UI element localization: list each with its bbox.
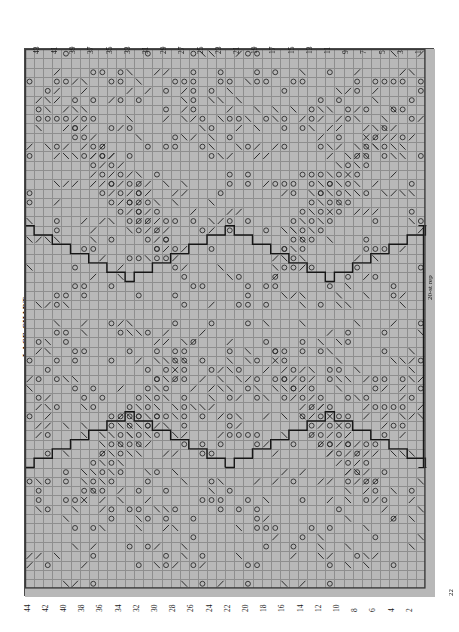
column-number-27: 27 bbox=[177, 47, 186, 55]
column-number-2: 2 bbox=[405, 609, 414, 613]
column-number-15: 15 bbox=[287, 47, 296, 55]
column-number-11: 11 bbox=[323, 47, 332, 54]
column-number-34: 34 bbox=[114, 605, 123, 613]
column-number-35: 35 bbox=[105, 47, 114, 55]
column-number-1: 1 bbox=[414, 50, 423, 54]
column-number-20: 20 bbox=[241, 605, 250, 613]
column-number-30: 30 bbox=[150, 605, 159, 613]
column-number-21: 21 bbox=[232, 47, 241, 55]
column-number-8: 8 bbox=[350, 609, 359, 613]
column-number-9: 9 bbox=[341, 50, 350, 54]
column-number-10: 10 bbox=[332, 605, 341, 613]
column-number-23: 23 bbox=[214, 47, 223, 55]
column-number-33: 33 bbox=[123, 47, 132, 55]
column-number-16: 16 bbox=[277, 605, 286, 613]
column-number-17: 17 bbox=[268, 47, 277, 55]
column-number-36: 36 bbox=[95, 605, 104, 613]
column-number-29: 29 bbox=[159, 47, 168, 55]
column-number-24: 24 bbox=[205, 605, 214, 613]
column-number-3: 3 bbox=[396, 50, 405, 54]
column-number-28: 28 bbox=[168, 605, 177, 613]
column-number-7: 7 bbox=[359, 50, 368, 54]
column-number-40: 40 bbox=[59, 605, 68, 613]
column-number-38: 38 bbox=[77, 605, 86, 613]
column-number-5: 5 bbox=[378, 50, 387, 54]
repeat-bracket-label: 20-st rep bbox=[426, 275, 434, 300]
column-number-43: 43 bbox=[32, 47, 41, 55]
column-number-18: 18 bbox=[259, 605, 268, 613]
column-number-22: 22 bbox=[223, 605, 232, 613]
column-number-39: 39 bbox=[68, 47, 77, 55]
chart-canvas bbox=[25, 49, 435, 597]
column-number-4: 4 bbox=[387, 609, 396, 613]
column-number-26: 26 bbox=[186, 605, 195, 613]
column-number-41: 41 bbox=[50, 47, 59, 55]
column-number-44: 44 bbox=[23, 605, 32, 613]
column-number-31: 31 bbox=[141, 47, 150, 55]
column-number-37: 37 bbox=[86, 47, 95, 55]
column-number-32: 32 bbox=[132, 605, 141, 613]
lace-chart-page: LACE CHART 43413937353331292725232119171… bbox=[0, 0, 459, 632]
corner-row-label: 22 bbox=[447, 589, 455, 596]
column-number-6: 6 bbox=[368, 609, 377, 613]
column-number-13: 13 bbox=[305, 47, 314, 55]
column-number-19: 19 bbox=[250, 47, 259, 55]
lace-chart-grid[interactable] bbox=[24, 48, 434, 596]
column-number-42: 42 bbox=[41, 605, 50, 613]
column-number-14: 14 bbox=[296, 605, 305, 613]
column-number-12: 12 bbox=[314, 605, 323, 613]
column-number-25: 25 bbox=[196, 47, 205, 55]
